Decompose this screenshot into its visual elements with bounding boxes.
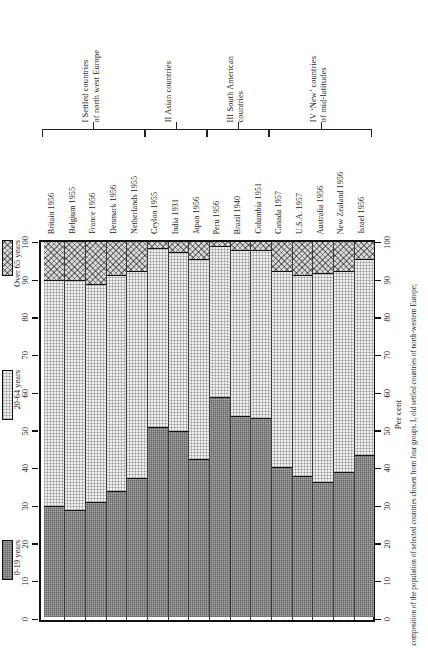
group-heading-line-1: III South American [226,56,235,122]
axis-tick-label-100: 100 [21,236,31,249]
axis-tick-label-0: 0 [21,617,31,621]
axis-tick-label-text: 100 [383,236,393,249]
axis-tick-label-text: 50 [383,427,393,436]
stacked-bar [147,242,168,620]
bar-separator [292,242,293,620]
axis-tick-80 [32,317,38,318]
axis-tick-label-text: 80 [383,313,393,322]
country-label: New Zealand 1956 [336,172,345,236]
axis-tick-80 [375,317,381,318]
axis-tick-60 [32,393,38,394]
bar-separator [209,242,210,620]
stacked-bar [312,242,333,620]
y-axis-title-text: Per cent [393,400,403,429]
country-label-text: France 1956 [88,193,97,234]
country-label: Denmark 1956 [109,185,118,236]
axis-tick-label-30: 30 [21,502,31,511]
bar-segment-0-19 [147,427,168,617]
country-label-text: Brazil 1940 [233,196,242,234]
bar-segment-over-65 [64,241,85,281]
brace-left-bar [146,129,176,130]
bar-segment-0-19 [106,491,127,617]
brace-left-bar [43,129,94,130]
axis-tick-label-text: 0 [21,617,31,621]
bar-separator [147,242,148,620]
axis-tick-label-text: 90 [383,276,393,285]
brace-left-bar [208,129,238,130]
axis-tick-label-10: 10 [383,577,393,586]
plot-area [39,240,375,622]
axis-tick-60 [375,393,381,394]
group-heading-line-1: II Asian countries [164,61,173,122]
figure-caption-text: Fig. 25.6 The age–composition of the pop… [410,284,419,646]
country-label-text: Israel 1956 [357,197,366,234]
bar-separator [230,242,231,620]
axis-tick-label-70: 70 [21,351,31,360]
axis-tick-70 [32,355,38,356]
stacked-bar [188,242,209,620]
bar-segment-over-65 [230,241,251,250]
brace-right-bar [176,129,206,130]
axis-tick-label-text: 80 [21,313,31,322]
axis-tick-label-60: 60 [383,389,393,398]
country-label: Netherlands 1955 [130,176,139,236]
country-label: Japan 1956 [192,197,201,236]
country-label: U.S.A. 1957 [295,193,304,236]
axis-tick-label-text: 10 [383,577,393,586]
axis-tick-label-80: 80 [21,313,31,322]
axis-tick-label-60: 60 [21,389,31,398]
bar-segment-0-19 [126,478,147,617]
country-label: Ceylon 1955 [150,192,159,236]
bar-segment-0-19 [312,482,333,618]
country-label-text: Netherlands 1955 [130,176,139,234]
brace-right-bar [238,129,268,130]
country-label-text: Peru 1956 [212,201,221,234]
bar-segment-20-64 [312,273,333,482]
brace-right-bar [93,129,144,130]
bar-segment-0-19 [85,502,106,617]
axis-tick-label-text: 90 [21,276,31,285]
bar-segment-over-65 [106,241,127,275]
bar-segment-over-65 [209,241,230,247]
bar-segment-0-19 [168,431,189,618]
bar-segment-0-19 [230,416,251,618]
bar-segment-over-65 [85,241,106,284]
group-braces [0,122,428,142]
group-headings: I Settled countriesof north west EuropeI… [0,0,428,122]
stacked-bar [292,242,313,620]
axis-tick-label-70: 70 [383,351,393,360]
axis-tick-30 [32,506,38,507]
axis-tick-label-90: 90 [383,276,393,285]
country-label-text: U.S.A. 1957 [295,193,304,234]
stacked-bar [354,242,375,620]
axis-tick-label-10: 10 [21,577,31,586]
group-heading-line-2: of mid-latitudes [319,56,328,122]
country-label: Canada 1957 [274,191,283,236]
group-brace-IV [269,122,372,138]
bar-segment-20-64 [85,284,106,503]
country-label: Brazil 1940 [233,196,242,236]
axis-tick-label-text: 30 [383,502,393,511]
bar-segment-0-19 [292,476,313,617]
y-axis-left: 0102030405060708090100 [0,240,38,622]
axis-tick-label-text: 60 [21,389,31,398]
bar-segment-over-65 [292,241,313,275]
bar-segment-20-64 [44,280,65,506]
country-label: Columbia 1951 [254,183,263,236]
axis-tick-label-20: 20 [383,540,393,549]
bar-segment-over-65 [271,241,292,271]
country-axis-labels: Britain 1956Belgium 1955France 1956Denma… [0,140,428,236]
country-label: Australia 1956 [316,186,325,236]
figure-caption: Fig. 25.6 The age–composition of the pop… [410,284,428,646]
bar-segment-20-64 [354,259,375,455]
brace-center-tick [93,122,94,130]
brace-center-tick [321,122,322,130]
bar-segment-over-65 [188,241,209,260]
axis-tick-label-text: 100 [21,236,31,249]
bar-segment-over-65 [168,241,189,252]
axis-tick-label-text: 40 [383,464,393,473]
group-heading-line-1: I Settled countries [81,50,90,122]
bar-segment-20-64 [230,250,251,416]
axis-tick-30 [375,506,381,507]
country-label-text: Belgium 1955 [68,187,77,234]
